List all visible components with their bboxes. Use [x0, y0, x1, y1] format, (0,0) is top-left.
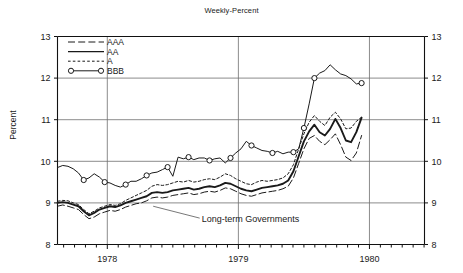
annotation-label: Long-term Governments [202, 214, 300, 224]
y-tick-label-right: 10 [432, 157, 442, 167]
data-series-group [58, 65, 362, 219]
series-marker-bbb [312, 76, 317, 81]
legend-label-aaa: AAA [107, 37, 124, 47]
x-tick-label: 1980 [359, 254, 379, 264]
series-marker-bbb [186, 155, 191, 160]
y-tick-label-right: 12 [432, 73, 442, 83]
series-marker-bbb [123, 182, 128, 187]
y-tick-label-left: 12 [40, 73, 50, 83]
chart-root: Weekly-Percent Percent 8910111213 891011… [0, 0, 463, 273]
series-marker-bbb [102, 180, 107, 185]
series-marker-bbb [301, 125, 306, 130]
y-tick-labels-left: 8910111213 [40, 32, 50, 250]
x-tick-labels: 197819791980 [97, 254, 379, 264]
chart-plot-area: 8910111213 8910111213 197819791980 AAAAA… [0, 0, 463, 273]
legend-label-bbb: BBB [107, 66, 124, 76]
x-tick-label: 1978 [97, 254, 117, 264]
y-tick-label-right: 8 [432, 240, 437, 250]
legend-marker-bbb [68, 68, 73, 73]
legend-label-aa: AA [107, 47, 119, 57]
legend-label-a: A [107, 56, 113, 66]
y-tick-labels-right: 8910111213 [432, 32, 442, 250]
legend-marker-bbb [98, 68, 103, 73]
y-tick-label-right: 11 [432, 115, 441, 125]
y-tick-label-left: 13 [40, 32, 50, 42]
series-line-aaa [58, 134, 362, 219]
series-marker-bbb [81, 177, 86, 182]
series-marker-bbb [249, 143, 254, 148]
annotation-leader-line [153, 206, 199, 218]
y-tick-label-right: 9 [432, 198, 437, 208]
y-tick-label-left: 8 [45, 240, 50, 250]
y-tick-label-left: 10 [40, 157, 50, 167]
series-marker-bbb [359, 80, 364, 85]
y-tick-label-right: 13 [432, 32, 442, 42]
series-marker-bbb [228, 155, 233, 160]
chart-legend: AAAAAABBB [68, 37, 124, 76]
series-marker-bbb [207, 158, 212, 163]
data-markers-group [81, 76, 364, 188]
x-tick-label: 1979 [228, 254, 248, 264]
series-marker-bbb [291, 150, 296, 155]
series-marker-bbb [165, 165, 170, 170]
series-line-aa [58, 118, 362, 216]
series-marker-bbb [144, 173, 149, 178]
y-tick-label-left: 9 [45, 198, 50, 208]
series-marker-bbb [270, 150, 275, 155]
chart-annotations: Long-term Governments [153, 206, 300, 223]
y-tick-label-left: 11 [41, 115, 50, 125]
